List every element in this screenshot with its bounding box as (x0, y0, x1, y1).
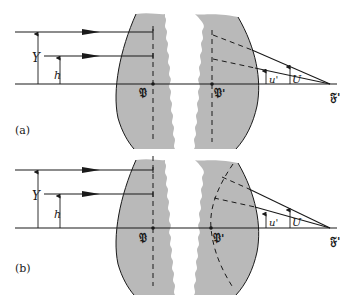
panel-a: Y h 𝔓 𝔓' 𝔉' u' U (a) (15, 13, 340, 149)
label-U: U (292, 216, 302, 229)
rear-principal-point-marker (210, 82, 214, 86)
front-principal-point-marker (151, 226, 155, 230)
lens-front-element (116, 159, 175, 295)
label-u-prime: u' (269, 217, 278, 228)
label-u-prime: u' (269, 74, 278, 85)
optics-figure: Y h 𝔓 𝔓' 𝔉' u' U (a) Y (0, 0, 357, 306)
panel-b: Y h 𝔓 𝔓' 𝔉' u' U (b) (15, 156, 340, 295)
label-Y: Y (32, 189, 41, 203)
label-P-prime: 𝔓' (214, 87, 225, 100)
label-P: 𝔓 (139, 232, 147, 245)
front-principal-point-marker (151, 82, 155, 86)
label-Y: Y (32, 51, 41, 65)
label-F-prime: 𝔉' (330, 235, 340, 248)
ray-outer-arrow-icon (82, 167, 100, 173)
label-F-prime: 𝔉' (330, 91, 340, 104)
lens-front-element (116, 13, 175, 149)
label-U: U (292, 73, 302, 86)
panel-label-a: (a) (15, 124, 30, 137)
panel-label-b: (b) (15, 262, 31, 275)
label-P: 𝔓 (139, 87, 147, 100)
ray-outer-refracted (252, 50, 330, 84)
rear-principal-point-marker (209, 226, 213, 230)
label-P-prime: 𝔓' (213, 232, 224, 245)
label-h: h (54, 69, 61, 82)
ray-outer-arrow-icon (82, 29, 100, 35)
ray-inner-arrow-icon (82, 53, 100, 59)
ray-inner-arrow-icon (82, 191, 100, 197)
label-h: h (54, 208, 61, 221)
